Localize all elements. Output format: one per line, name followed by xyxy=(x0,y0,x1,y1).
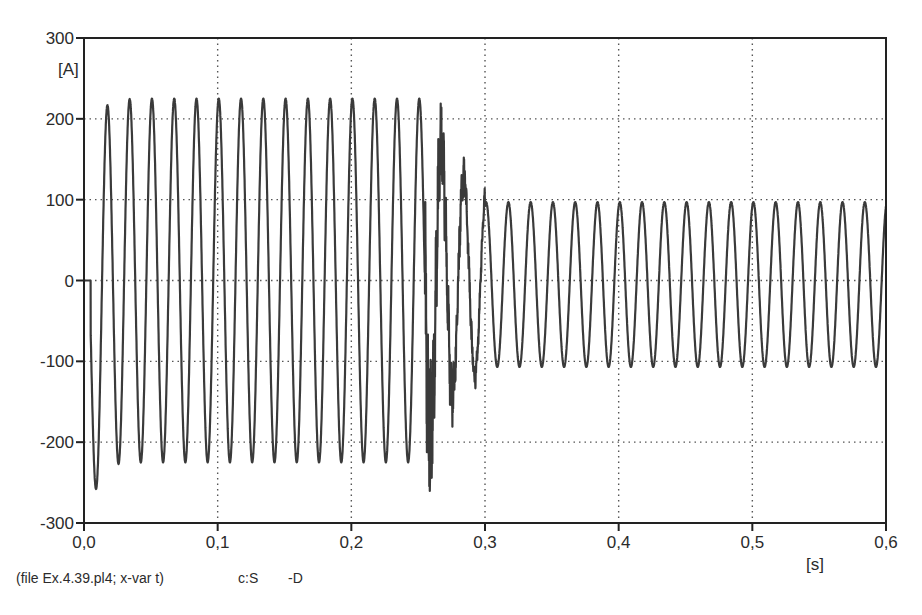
current-trace xyxy=(84,99,886,491)
y-tick-label: 200 xyxy=(46,110,74,129)
y-tick-label: 0 xyxy=(65,272,74,291)
x-tick-label: 0,5 xyxy=(741,533,765,552)
x-tick-label: 0,4 xyxy=(607,533,631,552)
x-tick-label: 0,0 xyxy=(72,533,96,552)
grid-lines xyxy=(84,38,886,523)
x-unit-label: [s] xyxy=(806,555,824,574)
x-tick-label: 0,6 xyxy=(874,533,898,552)
y-unit-label: [A] xyxy=(58,60,79,79)
x-axis: 0,00,10,20,30,40,50,6 xyxy=(72,523,898,552)
y-tick-label: -300 xyxy=(40,514,74,533)
x-tick-label: 0,2 xyxy=(340,533,364,552)
curve-suffix-label: -D xyxy=(288,570,303,586)
x-tick-label: 0,3 xyxy=(473,533,497,552)
y-tick-label: -200 xyxy=(40,433,74,452)
curve-id-label: c:S xyxy=(238,570,258,586)
file-info-label: (file Ex.4.39.pl4; x-var t) xyxy=(16,570,164,586)
chart-figure: 3002001000-100-200-300 0,00,10,20,30,40,… xyxy=(0,0,922,615)
y-tick-label: 100 xyxy=(46,191,74,210)
y-tick-label: -100 xyxy=(40,352,74,371)
y-tick-label: 300 xyxy=(46,29,74,48)
y-axis: 3002001000-100-200-300 xyxy=(40,29,84,533)
x-tick-label: 0,1 xyxy=(206,533,230,552)
